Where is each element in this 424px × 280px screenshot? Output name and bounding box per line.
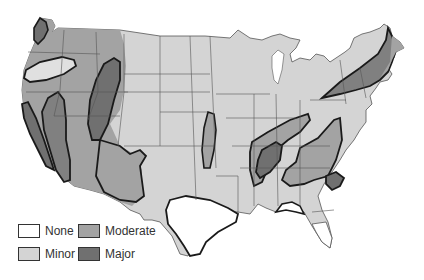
swatch-major bbox=[78, 247, 100, 261]
swatch-minor bbox=[18, 247, 40, 261]
legend-item-none: None bbox=[18, 223, 74, 239]
legend: None Moderate Minor Major bbox=[18, 223, 188, 275]
legend-label: Minor bbox=[45, 247, 75, 261]
legend-label: None bbox=[45, 224, 74, 238]
legend-item-major: Major bbox=[78, 246, 135, 262]
swatch-none bbox=[18, 224, 40, 238]
legend-item-minor: Minor bbox=[18, 246, 75, 262]
swatch-moderate bbox=[78, 224, 100, 238]
legend-label: Major bbox=[105, 247, 135, 261]
zone-major-south-carolina bbox=[326, 172, 344, 190]
legend-item-moderate: Moderate bbox=[78, 223, 156, 239]
legend-label: Moderate bbox=[105, 224, 156, 238]
